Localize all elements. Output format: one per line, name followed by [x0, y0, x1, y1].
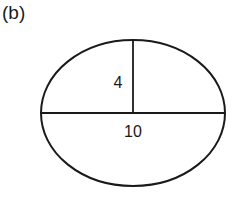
major-axis-label: 10 [124, 123, 142, 140]
semi-minor-axis-label: 4 [114, 74, 123, 91]
ellipse-diagram: 4 10 [0, 0, 242, 210]
